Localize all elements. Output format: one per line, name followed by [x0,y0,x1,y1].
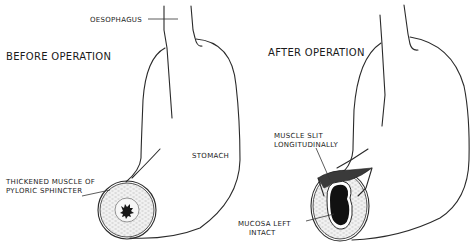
oesophagus-right-wall [404,5,418,50]
slit-label-line2: LONGITUDINALLY [274,141,339,149]
lesser-curvature [126,48,165,182]
after-oesophagus [380,5,418,126]
pylorus-label-line2: PYLORIC SPHINCTER [6,187,82,195]
before-panel: BEFORE OPERATION OESOPHAGUS STOMACH THIC… [5,6,240,239]
stomach-label: STOMACH [192,152,229,160]
before-oesophagus: OESOPHAGUS [90,6,202,118]
intact-mucosa [330,185,349,225]
pyloric-stenosis-diagram: BEFORE OPERATION OESOPHAGUS STOMACH THIC… [0,0,474,246]
slit-label-line1: MUSCLE SLIT [274,132,323,140]
pylorus-label-line1: THICKENED MUSCLE OF [5,178,95,186]
mucosa-label-line2: INTACT [249,229,276,237]
before-title: BEFORE OPERATION [6,51,111,62]
oesophagus-left-wall [380,15,385,126]
after-panel: AFTER OPERATION MUSCLE SLIT LONGITUDINA [238,5,469,241]
oesophagus-label: OESOPHAGUS [90,16,142,24]
antrum-fold [132,149,160,178]
before-pylorus: THICKENED MUSCLE OF PYLORIC SPHINCTER [5,178,156,239]
after-pylorus: MUSCLE SLIT LONGITUDINALLY MUCOSA LEFT I… [238,132,372,241]
mucosa-label-line1: MUCOSA LEFT [238,220,291,228]
after-title: AFTER OPERATION [268,47,365,58]
greater-curvature [352,37,469,240]
oesophagus-left-wall [164,6,172,118]
